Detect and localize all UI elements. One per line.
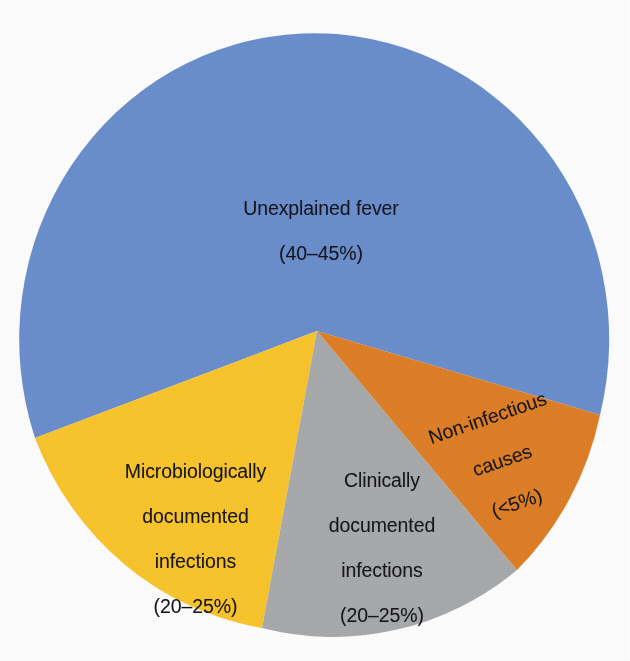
pie-chart-svg xyxy=(0,0,630,661)
pie-chart-figure: Unexplained fever (40–45%) Microbiologic… xyxy=(0,0,630,661)
